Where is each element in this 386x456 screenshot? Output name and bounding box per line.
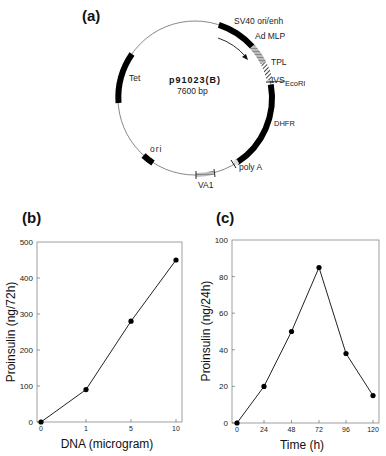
xtick-c-72: 72 xyxy=(315,426,323,433)
data-point-c xyxy=(316,265,321,270)
ytick-b-100: 100 xyxy=(20,382,34,391)
x-axis-b: 0 1 5 10 xyxy=(39,419,180,432)
ytick-c-80: 80 xyxy=(219,273,228,282)
x-axis-title-c: Time (h) xyxy=(280,438,324,452)
data-point-b xyxy=(83,387,88,392)
dhfr-segment xyxy=(237,85,272,163)
data-point-b xyxy=(173,257,178,262)
promoter-arrow xyxy=(218,38,246,57)
x-axis-title-b: DNA (microgram) xyxy=(61,437,154,451)
data-point-b xyxy=(128,319,133,324)
ytick-c-40: 40 xyxy=(219,346,228,355)
label-polya: poly A xyxy=(239,162,262,172)
ytick-b-300: 300 xyxy=(20,310,34,319)
ytick-c-0: 0 xyxy=(224,419,229,428)
plot-frame-c xyxy=(232,240,379,423)
y-axis-title-c: Proinsulin (ng/24h) xyxy=(199,281,213,382)
ytick-c-60: 60 xyxy=(219,309,228,318)
data-point-b xyxy=(38,419,43,424)
ytick-c-100: 100 xyxy=(215,236,229,245)
label-ivs: IVS xyxy=(271,75,285,85)
panel-c-label: (c) xyxy=(216,209,234,226)
x-axis-c: 0 24 48 72 96 120 xyxy=(235,420,379,433)
data-point-c xyxy=(289,329,294,334)
va1-right-tick xyxy=(214,169,215,177)
ytick-b-400: 400 xyxy=(20,274,34,283)
label-ecori: EcoRI xyxy=(285,79,305,88)
plasmid-size: 7600 bp xyxy=(177,86,208,96)
xtick-c-120: 120 xyxy=(367,426,379,433)
ivs-segment xyxy=(264,63,270,80)
panel-b-label: (b) xyxy=(22,209,41,226)
label-ori: ori xyxy=(150,144,162,154)
data-point-c xyxy=(234,420,239,425)
xtick-c-24: 24 xyxy=(260,426,268,433)
ytick-b-500: 500 xyxy=(20,238,34,247)
label-admlp: Ad MLP xyxy=(255,31,286,41)
xtick-b-10: 10 xyxy=(172,425,180,432)
va1-segment xyxy=(196,173,214,175)
xtick-b-1: 1 xyxy=(84,425,88,432)
ori-segment xyxy=(144,156,154,164)
xtick-c-48: 48 xyxy=(288,426,296,433)
series-line-b xyxy=(41,260,176,422)
tpl-segment xyxy=(252,47,263,64)
plot-frame-b xyxy=(37,242,182,422)
figure: (a) SV40 ori/enh Ad MLP TPL IVS xyxy=(0,0,386,456)
xtick-b-0: 0 xyxy=(39,425,43,432)
series-line-c xyxy=(237,268,373,424)
panel-c: (c) 0 20 40 60 80 100 0 24 48 7 xyxy=(199,209,379,452)
ytick-c-20: 20 xyxy=(219,382,228,391)
data-point-c xyxy=(370,393,375,398)
sv40-admlp-segment xyxy=(219,25,252,47)
xtick-b-5: 5 xyxy=(129,425,133,432)
xtick-c-0: 0 xyxy=(235,426,239,433)
data-point-c xyxy=(343,351,348,356)
ytick-b-200: 200 xyxy=(20,346,34,355)
panel-a-label: (a) xyxy=(82,7,100,24)
data-point-c xyxy=(261,384,266,389)
label-tpl: TPL xyxy=(271,57,287,67)
y-axis-title-b: Proinsulin (ng/72h) xyxy=(4,282,18,383)
promoter-arrowhead-icon xyxy=(242,54,248,60)
panel-a: (a) SV40 ori/enh Ad MLP TPL IVS xyxy=(82,7,305,190)
xtick-c-96: 96 xyxy=(342,426,350,433)
panel-b: (b) 0 100 200 300 400 500 0 1 5 10 xyxy=(4,209,182,451)
label-tet: Tet xyxy=(129,73,141,83)
ytick-b-0: 0 xyxy=(29,418,34,427)
label-va1: VA1 xyxy=(198,180,214,190)
label-sv40: SV40 ori/enh xyxy=(234,16,283,26)
plasmid-name: p91023(B) xyxy=(169,75,221,85)
label-dhfr: DHFR xyxy=(274,119,295,128)
